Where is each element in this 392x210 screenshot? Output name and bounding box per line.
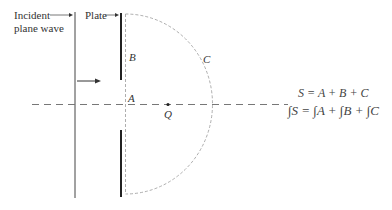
incident-label-line1: Incident <box>14 9 50 21</box>
incident-pointer-arrowhead <box>69 13 73 17</box>
plate-pointer-arrowhead <box>115 13 119 17</box>
label-A: A <box>128 92 135 104</box>
integral-expression: ∫S = ∫A + ∫B + ∫C <box>288 103 379 118</box>
plate-label: Plate <box>85 9 107 21</box>
label-Q: Q <box>164 108 172 120</box>
incident-label-line2: plane wave <box>14 22 64 34</box>
point-Q <box>166 103 169 106</box>
label-B: B <box>129 51 136 63</box>
propagation-arrowhead <box>95 79 101 84</box>
label-C: C <box>203 53 210 65</box>
equation-integral-sum: ∫S = ∫A + ∫B + ∫C <box>288 103 379 119</box>
equation-surface-sum: S = A + B + C <box>298 86 369 101</box>
